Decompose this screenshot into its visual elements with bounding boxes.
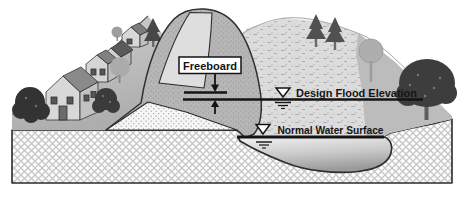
dam-freeboard-diagram: Design Flood Elevation Normal Water Surf… [0,0,463,202]
tree [12,87,50,123]
freeboard-callout: Freeboard [179,57,241,74]
tree [112,27,123,42]
normal-water-surface-label: Normal Water Surface [278,124,384,136]
design-flood-elevation-label: Design Flood Elevation [296,87,417,99]
freeboard-label: Freeboard [183,60,237,72]
house [46,67,98,120]
diagram-canvas: Design Flood Elevation Normal Water Surf… [0,0,463,202]
